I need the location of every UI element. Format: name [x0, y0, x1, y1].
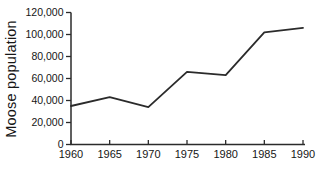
- line-chart-canvas: 020,00040,00060,00080,000100,000120,0001…: [0, 0, 323, 175]
- moose-population-chart: Moose population 020,00040,00060,00080,0…: [0, 0, 323, 175]
- x-tick-label: 1960: [59, 148, 83, 160]
- x-tick-label: 1980: [213, 148, 237, 160]
- y-tick-label: 40,000: [31, 94, 63, 106]
- x-tick-label: 1975: [175, 148, 199, 160]
- x-tick-label: 1985: [252, 148, 276, 160]
- data-line: [71, 28, 303, 107]
- x-tick-label: 1965: [97, 148, 121, 160]
- x-tick-label: 1970: [136, 148, 160, 160]
- y-tick-label: 60,000: [31, 72, 63, 84]
- y-tick-label: 100,000: [26, 28, 64, 40]
- y-tick-label: 20,000: [31, 116, 63, 128]
- y-tick-label: 80,000: [31, 50, 63, 62]
- y-axis-title: Moose population: [3, 20, 19, 138]
- x-tick-label: 1990: [291, 148, 315, 160]
- y-tick-label: 120,000: [26, 6, 64, 18]
